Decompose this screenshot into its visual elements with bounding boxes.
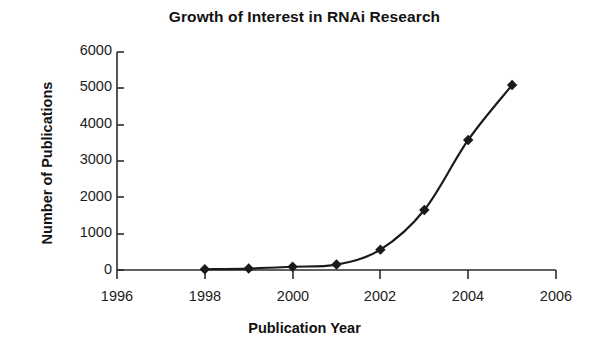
chart-figure: Growth of Interest in RNAi Research Numb… (0, 0, 609, 351)
y-tick-marks (117, 52, 124, 270)
data-series-line (205, 85, 512, 269)
data-point-1999 (244, 263, 254, 273)
data-point-2001 (331, 259, 341, 269)
plot-area (0, 0, 609, 351)
data-point-markers (200, 80, 518, 275)
data-point-1998 (200, 264, 210, 274)
x-tick-marks (117, 270, 556, 279)
